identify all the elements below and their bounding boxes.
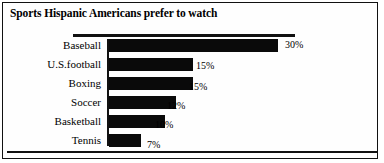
- bar-tennis: [109, 134, 141, 147]
- bar-row: U.S.football 15%: [3, 58, 379, 71]
- y-axis-line: [107, 39, 109, 146]
- bar-row: Basketball 10%: [3, 115, 379, 128]
- value-label: 10%: [155, 118, 173, 131]
- bar-row: Soccer 12%: [3, 96, 379, 109]
- category-label: Boxing: [3, 77, 101, 90]
- value-label: 12%: [167, 99, 185, 112]
- bar-row: Baseball 30%: [3, 39, 379, 52]
- plot-area: Baseball 30% U.S.football 15% Boxing 15%…: [3, 39, 379, 146]
- bar-us-football: [109, 58, 193, 71]
- category-label: Soccer: [3, 96, 101, 109]
- bar-row: Boxing 15%: [3, 77, 379, 90]
- bar-boxing: [109, 77, 193, 90]
- category-label: Basketball: [3, 115, 101, 128]
- chart-title: Sports Hispanic Americans prefer to watc…: [10, 7, 217, 19]
- category-label: Tennis: [3, 134, 101, 147]
- category-label: U.S.football: [3, 58, 101, 71]
- chart-frame: Sports Hispanic Americans prefer to watc…: [2, 2, 378, 159]
- value-label: 30%: [285, 38, 303, 51]
- value-label: 15%: [189, 80, 207, 93]
- bar-baseball: [109, 39, 278, 52]
- source-clip: Source: MRI/WHP Hispanic Poll: [0, 150, 384, 163]
- bar-soccer: [109, 96, 176, 109]
- bar-row: Tennis 7%: [3, 134, 379, 147]
- value-label: 15%: [196, 59, 214, 72]
- title-divider: [73, 34, 295, 37]
- category-label: Baseball: [3, 39, 101, 52]
